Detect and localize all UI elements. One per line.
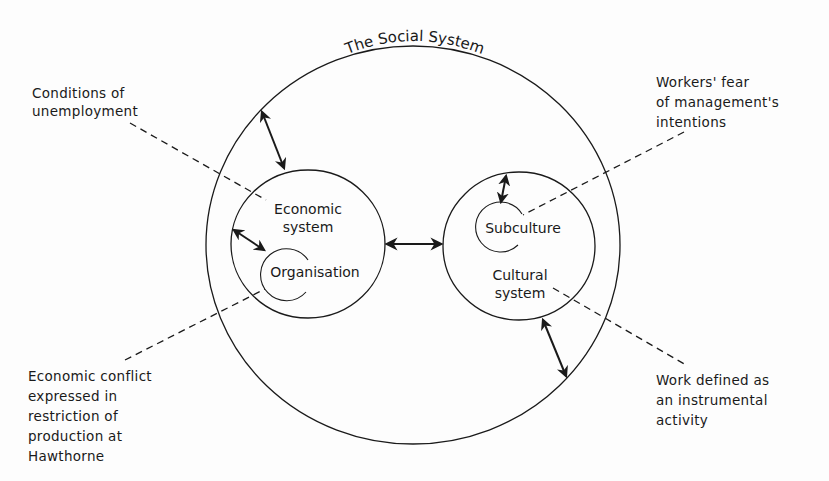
arrow-cultural-subculture [501,176,506,202]
leader-unemployment [130,123,266,200]
subculture-label: Subculture [473,219,573,237]
arrow-economic-organisation [234,230,264,250]
social-system-title: The Social System [342,27,487,58]
leader-work-defined [553,288,686,365]
annotation-workers-fear: Workers' fear of management's intentions [656,72,779,132]
cultural-system-label: Cultural system [475,266,565,302]
leader-economic-conflict [125,289,265,360]
arrow-social-economic [262,112,284,168]
economic-system-label: Economic system [262,200,354,236]
organisation-label: Organisation [259,263,371,281]
arrow-cultural-social [543,320,566,376]
annotation-economic-conflict: Economic conflict expressed in restricti… [28,366,152,466]
annotation-unemployment: Conditions of unemployment [32,85,138,120]
annotation-work-defined: Work defined as an instrumental activity [656,370,769,430]
svg-text:The Social System: The Social System [342,27,487,58]
leader-workers-fear [523,132,684,215]
